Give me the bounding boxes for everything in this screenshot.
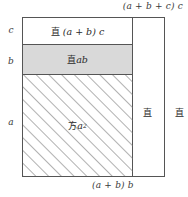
region-square: 方 a2 xyxy=(23,75,133,176)
caption-top-right: (a + b + c) c xyxy=(123,1,183,11)
region-column-right-cjk: 直 xyxy=(175,106,184,119)
geometry-figure: (a + b + c) c c b a 直 (a + b) c 直 ab xyxy=(0,0,188,197)
region-square-exponent: 2 xyxy=(83,122,87,129)
region-square-label: 方 a2 xyxy=(23,75,132,176)
region-top-band: 直 (a + b) c xyxy=(23,18,133,45)
region-square-cjk: 方 xyxy=(68,119,77,132)
region-mid-band-cjk: 直 xyxy=(67,53,76,66)
bottom-rule xyxy=(96,176,165,177)
side-label-c: c xyxy=(5,25,17,35)
region-mid-band-math: ab xyxy=(76,54,88,65)
region-column-middle-cjk: 直 xyxy=(143,106,152,119)
region-top-band-cjk: 直 xyxy=(51,25,60,38)
side-label-a: a xyxy=(5,117,17,127)
caption-bottom: (a + b) b xyxy=(92,180,134,190)
figure-frame: 直 (a + b) c 直 ab 方 a2 xyxy=(22,17,165,177)
region-mid-band: 直 ab xyxy=(23,45,133,75)
region-top-band-math: (a + b) c xyxy=(63,26,105,37)
side-label-b: b xyxy=(5,56,17,66)
